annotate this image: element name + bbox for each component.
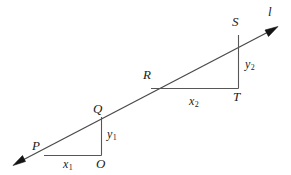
label-y1: y1: [107, 128, 116, 140]
line-l-arrowhead-left: [13, 156, 26, 166]
label-x1: x1: [63, 158, 72, 170]
line-l-arrowhead-right: [265, 27, 278, 37]
geometry-figure: P Q O R S T l x1 y1 x2 y2: [0, 0, 291, 175]
label-y1-subscript: 1: [113, 133, 117, 142]
label-point-s: S: [232, 15, 239, 28]
label-point-p: P: [32, 139, 40, 152]
label-x2: x2: [189, 95, 198, 107]
label-line-l: l: [268, 5, 272, 18]
label-y1-base: y: [107, 127, 112, 141]
label-y2: y2: [245, 58, 254, 70]
label-x2-subscript: 2: [195, 100, 199, 109]
label-point-r: R: [143, 68, 151, 81]
diagram-canvas: [0, 0, 291, 175]
label-x2-base: x: [189, 94, 194, 108]
label-y2-base: y: [245, 57, 250, 71]
label-x1-subscript: 1: [69, 163, 73, 172]
label-point-q: Q: [93, 102, 102, 115]
label-point-t: T: [233, 90, 240, 103]
label-y2-subscript: 2: [251, 63, 255, 72]
label-x1-base: x: [63, 157, 68, 171]
label-point-o: O: [96, 157, 105, 170]
triangle-large-legs: [151, 35, 239, 89]
